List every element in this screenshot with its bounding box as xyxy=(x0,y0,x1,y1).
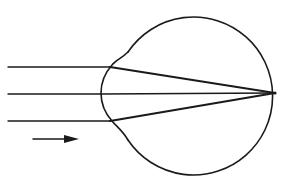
direction-arrow-icon xyxy=(33,135,79,143)
eyeball-outline xyxy=(128,17,273,175)
cornea-outline xyxy=(101,52,128,140)
ray-lower-refracted xyxy=(110,93,275,121)
eye-refraction-diagram xyxy=(0,0,286,178)
ray-upper-refracted xyxy=(110,67,275,93)
ray-middle-refracted xyxy=(101,93,275,94)
focal-point xyxy=(273,91,276,94)
